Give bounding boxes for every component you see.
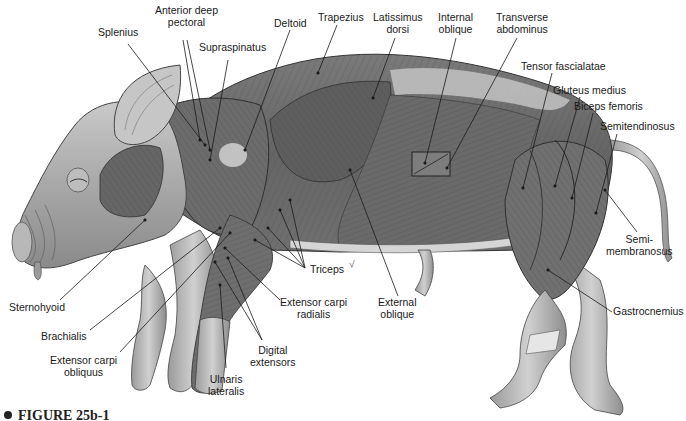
triceps-checkmark: √	[349, 259, 355, 270]
leader-dot	[279, 209, 281, 211]
leader-dot	[209, 149, 211, 151]
umbilical-cord	[415, 250, 433, 296]
label-tensor-fascialatae: Tensor fascialatae	[521, 61, 606, 73]
label-deltoid: Deltoid	[274, 18, 307, 30]
leader-dot	[199, 139, 201, 141]
leader-dot	[595, 212, 597, 214]
leader-dot	[604, 189, 606, 191]
label-sternohyoid: Sternohyoid	[9, 302, 65, 314]
leader-dot	[244, 149, 246, 151]
leader-dot	[224, 247, 226, 249]
leader-dot	[547, 269, 549, 271]
tongue	[34, 262, 41, 280]
leader-dot	[144, 219, 146, 221]
label-biceps-femoris: Biceps femoris	[574, 101, 643, 113]
label-internal-oblique: Internal oblique	[438, 12, 473, 35]
leader-dot	[571, 197, 573, 199]
leader-dot	[424, 162, 426, 164]
label-gastrocnemius: Gastrocnemius	[613, 306, 684, 318]
leader-dot	[372, 97, 374, 99]
label-semimembranosus: Semi- membranosus	[606, 234, 673, 257]
label-extensor-carpi-radialis: Extensor carpi radialis	[280, 297, 347, 320]
label-digital-extensors: Digital extensors	[250, 345, 296, 368]
leader-dot	[219, 227, 221, 229]
leader-dot	[209, 159, 211, 161]
label-trapezius: Trapezius	[318, 12, 364, 24]
leader-line	[605, 190, 637, 232]
leader-dot	[289, 199, 291, 201]
label-semitendinosus: Semitendinosus	[600, 121, 675, 133]
leader-dot	[254, 239, 256, 241]
leader-dot	[522, 187, 524, 189]
label-gluteus-medius: Gluteus medius	[553, 85, 626, 97]
label-external-oblique: External oblique	[378, 297, 417, 320]
leader-dot	[219, 284, 221, 286]
figure-caption: FIGURE 25b-1	[4, 408, 109, 421]
eye	[67, 168, 89, 192]
label-supraspinatus: Supraspinatus	[199, 42, 266, 54]
leader-dot	[204, 144, 206, 146]
leader-dot	[554, 185, 556, 187]
label-transverse-abdominus: Transverse abdominus	[496, 12, 548, 35]
leader-dot	[227, 257, 229, 259]
leader-dot	[214, 261, 216, 263]
bullet-icon	[4, 411, 12, 419]
label-latissimus-dorsi: Latissimus dorsi	[373, 12, 423, 35]
label-anterior-deep-pectoral: Anterior deep pectoral	[155, 5, 218, 28]
figure-caption-text: FIGURE 25b-1	[18, 408, 109, 421]
leader-dot	[446, 167, 448, 169]
label-ulnaris-lateralis: Ulnaris lateralis	[208, 374, 244, 397]
label-brachialis: Brachialis	[41, 331, 87, 343]
leader-dot	[229, 232, 231, 234]
label-splenius: Splenius	[98, 27, 138, 39]
leader-dot	[349, 169, 351, 171]
leader-dot	[317, 72, 319, 74]
leader-dot	[267, 227, 269, 229]
label-extensor-carpi-obliquus: Extensor carpi obliquus	[50, 355, 117, 378]
label-triceps: Triceps	[310, 264, 344, 276]
